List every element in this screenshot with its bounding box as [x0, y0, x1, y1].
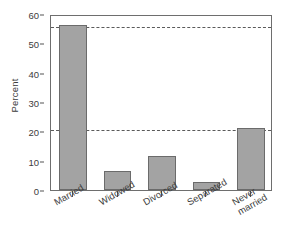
- y-tick-mark: [40, 103, 44, 104]
- y-axis-title: Percent: [4, 0, 24, 190]
- plot-area: [50, 15, 272, 191]
- y-axis-title-text: Percent: [9, 78, 20, 112]
- y-tick-label: 60: [28, 10, 39, 21]
- y-tick-label: 20: [28, 127, 39, 138]
- y-tick-mark: [40, 15, 44, 16]
- y-tick-mark: [40, 44, 44, 45]
- bar-series: [51, 16, 271, 190]
- y-tick-mark: [40, 161, 44, 162]
- y-tick-mark: [40, 132, 44, 133]
- bar: [59, 25, 87, 190]
- bar: [237, 128, 265, 190]
- y-tick-label: 0: [34, 186, 39, 197]
- bar-chart-figure: Percent 0102030405060 MarriedWidowedDivo…: [0, 0, 285, 241]
- y-tick-mark: [40, 73, 44, 74]
- y-tick-label: 40: [28, 68, 39, 79]
- y-axis-ticks: 0102030405060: [22, 15, 44, 191]
- y-tick-mark: [40, 191, 44, 192]
- y-tick-label: 30: [28, 98, 39, 109]
- y-tick-label: 10: [28, 156, 39, 167]
- x-axis-category-labels: MarriedWidowedDivorcedSeparatedNever mar…: [50, 198, 272, 241]
- y-tick-label: 50: [28, 39, 39, 50]
